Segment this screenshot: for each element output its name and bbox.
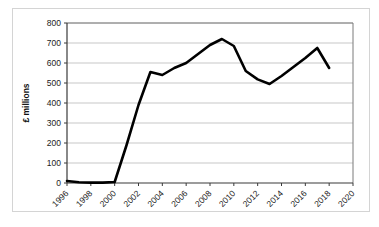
y-tick-label: 400	[47, 98, 61, 108]
x-tick-label: 2016	[288, 188, 309, 209]
line-chart: 0100200300400500600700800 19961998200020…	[13, 9, 369, 211]
y-tick-label: 300	[47, 118, 61, 128]
y-tick-label: 700	[47, 38, 61, 48]
y-tick-label: 500	[47, 78, 61, 88]
y-tick-label: 800	[47, 18, 61, 28]
y-axis-ticks: 0100200300400500600700800	[47, 18, 67, 188]
y-tick-label: 0	[56, 178, 61, 188]
y-axis-title-text: £ millions	[21, 83, 31, 122]
x-tick-label: 2014	[264, 188, 285, 209]
x-tick-label: 2000	[98, 188, 119, 209]
data-series-line	[67, 39, 329, 183]
y-axis-title: £ millions	[21, 83, 31, 122]
chart-frame: 0100200300400500600700800 19961998200020…	[12, 8, 370, 212]
x-tick-label: 1996	[50, 188, 71, 209]
y-tick-label: 100	[47, 158, 61, 168]
x-tick-label: 2018	[312, 188, 333, 209]
series-path	[67, 39, 329, 183]
y-tick-label: 200	[47, 138, 61, 148]
y-tick-label: 600	[47, 58, 61, 68]
x-tick-label: 2006	[169, 188, 190, 209]
x-axis-ticks: 1996199820002002200420062008201020122014…	[50, 183, 357, 209]
x-tick-label: 2010	[217, 188, 238, 209]
x-tick-label: 1998	[74, 188, 95, 209]
x-tick-label: 2008	[193, 188, 214, 209]
x-tick-label: 2004	[145, 188, 166, 209]
x-tick-label: 2002	[121, 188, 142, 209]
x-tick-label: 2020	[336, 188, 357, 209]
x-tick-label: 2012	[241, 188, 262, 209]
